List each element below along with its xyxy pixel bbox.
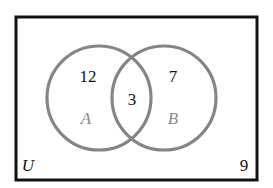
- outside-count: 9: [240, 156, 249, 175]
- set-a-only-count: 12: [80, 67, 97, 86]
- intersection-count: 3: [128, 90, 137, 109]
- universe-rectangle: [16, 17, 257, 180]
- set-b-only-count: 7: [169, 67, 178, 86]
- set-a-label: A: [80, 109, 92, 128]
- universe-label: U: [22, 156, 36, 175]
- venn-diagram: 12 7 3 A B U 9: [0, 0, 273, 188]
- set-b-label: B: [168, 109, 179, 128]
